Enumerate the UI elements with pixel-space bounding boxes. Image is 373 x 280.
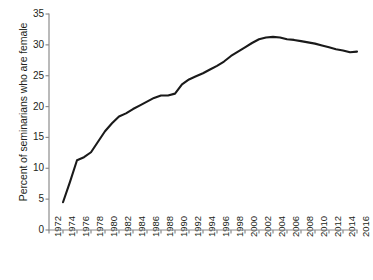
- axis-lines: [49, 14, 357, 230]
- plot-area: [0, 0, 373, 280]
- data-line-series-0: [63, 37, 357, 202]
- chart-container: Percent of seminarians who are female 05…: [0, 0, 373, 280]
